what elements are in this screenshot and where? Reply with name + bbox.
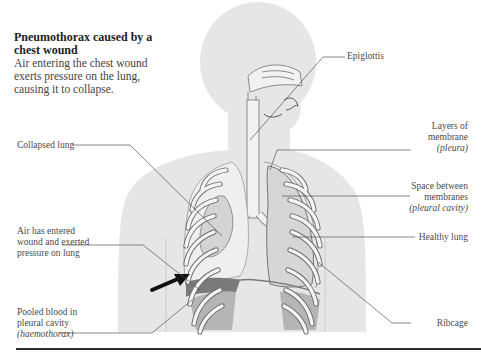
label-space-line1: Space between (409, 181, 468, 192)
body-silhouette (118, 2, 366, 332)
label-pooled-blood: Pooled blood in pleural cavity (haemotho… (17, 307, 77, 340)
label-air-entered-line2: wound and exerted (17, 237, 89, 248)
label-air-entered: Air has entered wound and exerted pressu… (17, 226, 89, 259)
label-pleura-term: (pleura) (437, 143, 468, 153)
label-pleural-cavity-term: (pleural cavity) (409, 203, 468, 213)
caption-description: Air entering the chest wound exerts pres… (14, 57, 154, 96)
label-pooled-blood-line1: Pooled blood in (17, 307, 77, 318)
label-space-line2: membranes (409, 192, 468, 203)
bottom-rule (16, 348, 481, 350)
label-space-between: Space between membranes (pleural cavity) (409, 181, 468, 214)
label-collapsed-lung: Collapsed lung (17, 140, 74, 151)
label-air-entered-line3: pressure on lung (17, 248, 89, 259)
label-healthy-lung: Healthy lung (419, 232, 468, 243)
label-epiglottis: Epiglottis (347, 51, 384, 62)
caption-block: Pneumothorax caused by a chest wound Air… (14, 31, 154, 96)
label-pooled-blood-line2: pleural cavity (17, 318, 77, 329)
label-ribcage: Ribcage (437, 318, 468, 329)
label-haemothorax-term: (haemothorax) (17, 329, 73, 339)
label-layers-line1: Layers of (428, 121, 468, 132)
caption-title: Pneumothorax caused by a chest wound (14, 31, 154, 57)
label-layers-line2: membrane (428, 132, 468, 143)
label-air-entered-line1: Air has entered (17, 226, 89, 237)
label-layers-membrane: Layers of membrane (pleura) (428, 121, 468, 154)
pneumothorax-diagram: Pneumothorax caused by a chest wound Air… (0, 0, 481, 360)
